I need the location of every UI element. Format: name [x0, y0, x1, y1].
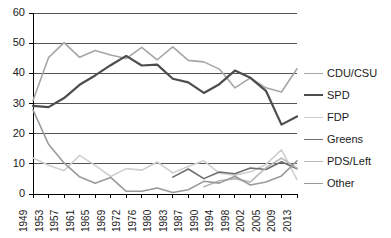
series-line-other — [33, 110, 297, 193]
legend-item-label: Other — [327, 178, 355, 189]
legend-item-greens[interactable]: Greens — [304, 128, 391, 150]
data-series-group — [33, 43, 297, 193]
legend-item-label: FDP — [327, 112, 349, 123]
legend-swatch-icon — [304, 139, 323, 140]
legend-item-other[interactable]: Other — [304, 172, 391, 194]
legend-item-pds-left[interactable]: PDS/Left — [304, 150, 391, 172]
legend-item-label: SPD — [327, 90, 350, 101]
legend-item-fdp[interactable]: FDP — [304, 106, 391, 128]
legend-item-cdu-csu[interactable]: CDU/CSU — [304, 62, 391, 84]
legend-swatch-icon — [304, 94, 323, 96]
series-line-spd — [33, 56, 297, 125]
legend-item-label: CDU/CSU — [327, 68, 377, 79]
legend-swatch-icon — [304, 117, 323, 118]
legend-item-label: Greens — [327, 134, 363, 145]
legend-item-spd[interactable]: SPD — [304, 84, 391, 106]
legend-swatch-icon — [304, 161, 323, 162]
legend-item-label: PDS/Left — [327, 156, 371, 167]
line-chart: 0102030405060 19491953195719611965196919… — [0, 0, 391, 238]
legend: CDU/CSUSPDFDPGreensPDS/LeftOther — [304, 62, 391, 194]
legend-swatch-icon — [304, 73, 323, 74]
y-tick-marks — [29, 13, 33, 194]
x-tick-marks — [33, 194, 297, 198]
legend-swatch-icon — [304, 183, 323, 184]
